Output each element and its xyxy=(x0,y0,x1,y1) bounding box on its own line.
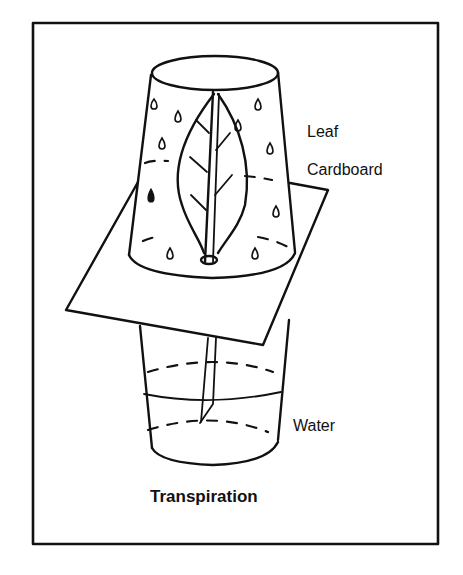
label-water: Water xyxy=(293,417,336,434)
label-leaf: Leaf xyxy=(307,123,339,140)
upper-cup xyxy=(129,56,295,278)
lower-cup xyxy=(140,320,289,465)
leaf-stem-lower xyxy=(200,338,216,423)
diagram-title: Transpiration xyxy=(150,487,258,506)
transpiration-diagram: Leaf Cardboard Water Transpiration xyxy=(0,0,463,575)
label-cardboard: Cardboard xyxy=(307,161,383,178)
